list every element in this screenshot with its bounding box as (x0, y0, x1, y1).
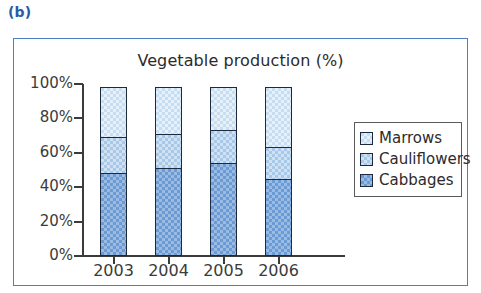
y-axis-tick-label: 20% (3, 212, 73, 230)
x-axis-tick-label: 2003 (86, 261, 142, 280)
y-axis-tick-label: 0% (3, 246, 73, 264)
y-axis-tick-label: 80% (3, 108, 73, 126)
chart-legend: MarrowsCauliflowersCabbages (354, 122, 462, 197)
legend-swatch-cauliflowers (360, 153, 373, 166)
y-axis-tick (74, 152, 83, 154)
legend-item[interactable]: Cabbages (360, 170, 455, 191)
x-axis-tick-label: 2006 (251, 261, 307, 280)
chart-frame: Vegetable production (%) 100%80%60%40%20… (13, 38, 468, 286)
bar-segment-cabbages[interactable] (100, 173, 127, 256)
y-axis-tick (74, 83, 83, 85)
bar-segment-cauliflowers[interactable] (265, 147, 292, 180)
bar-segment-marrows[interactable] (155, 87, 182, 135)
y-axis-tick-label: 60% (3, 143, 73, 161)
bar-segment-marrows[interactable] (265, 87, 292, 149)
y-axis-tick-label: 100% (3, 74, 73, 92)
bar-segment-marrows[interactable] (210, 87, 237, 132)
bar-segment-cabbages[interactable] (210, 163, 237, 256)
bar-stack[interactable] (100, 89, 127, 256)
legend-swatch-cabbages (360, 174, 373, 187)
bar-segment-cabbages[interactable] (265, 179, 292, 256)
bar-stack[interactable] (155, 89, 182, 256)
legend-item[interactable]: Marrows (360, 128, 455, 149)
y-axis-tick-label: 40% (3, 177, 73, 195)
bar-stack[interactable] (265, 89, 292, 256)
bar-stack[interactable] (210, 89, 237, 256)
y-axis-tick (74, 255, 83, 257)
x-axis-tick-label: 2004 (141, 261, 197, 280)
y-axis-tick (74, 221, 83, 223)
legend-item-label: Cauliflowers (379, 152, 471, 167)
x-axis-tick-label: 2005 (196, 261, 252, 280)
bar-segment-cauliflowers[interactable] (100, 137, 127, 175)
figure-label: (b) (8, 4, 31, 20)
bar-segment-marrows[interactable] (100, 87, 127, 139)
bar-segment-cabbages[interactable] (155, 168, 182, 256)
bar-segment-cauliflowers[interactable] (210, 130, 237, 164)
bar-segment-cauliflowers[interactable] (155, 134, 182, 170)
legend-item[interactable]: Cauliflowers (360, 149, 455, 170)
y-axis-tick (74, 186, 83, 188)
legend-swatch-marrows (360, 132, 373, 145)
y-axis-line (82, 84, 84, 257)
legend-item-label: Marrows (379, 131, 442, 146)
legend-item-label: Cabbages (379, 173, 453, 188)
y-axis-tick (74, 117, 83, 119)
